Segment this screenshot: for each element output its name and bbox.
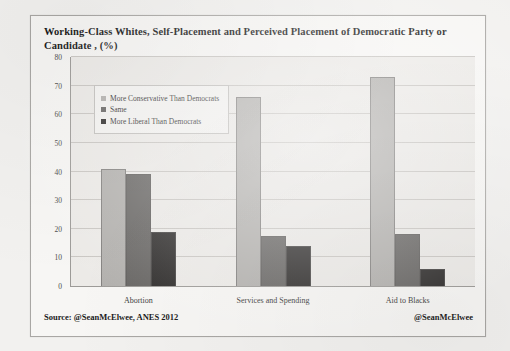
legend-label: Same [110,105,127,114]
y-axis-tick-70: 70 [55,81,63,90]
y-axis-tick-20: 20 [55,224,63,233]
legend-item[interactable]: More Liberal Than Democrats [101,117,219,126]
legend-item[interactable]: Same [101,105,219,114]
y-axis-tick-60: 60 [55,110,63,119]
x-axis-label: Aid to Blacks [340,289,475,305]
y-axis: 01020304050607080 [44,57,66,286]
chart-title: Working-Class Whites, Self-Placement and… [44,25,472,53]
legend-swatch-icon [101,119,106,124]
bar[interactable] [261,236,286,286]
y-axis-tick-50: 50 [55,138,63,147]
y-axis-tick-40: 40 [55,167,63,176]
y-axis-tick-0: 0 [58,282,62,291]
bar[interactable] [370,77,395,286]
x-axis-label: Services and Spending [206,289,341,305]
bar[interactable] [101,169,126,286]
chart-frame: Working-Class Whites, Self-Placement and… [30,15,486,337]
y-axis-tick-30: 30 [55,196,63,205]
bar[interactable] [126,174,151,286]
x-axis: AbortionServices and SpendingAid to Blac… [71,289,475,305]
bar[interactable] [151,232,176,286]
y-axis-tick-80: 80 [55,53,63,62]
legend-label: More Liberal Than Democrats [110,117,201,126]
y-axis-tick-10: 10 [55,253,63,262]
chart-footer: Source: @SeanMcElwee, ANES 2012 @SeanMcE… [44,312,473,322]
x-axis-label: Abortion [71,289,206,305]
bar[interactable] [420,269,445,286]
legend-label: More Conservative Than Democrats [110,94,219,103]
bar[interactable] [395,234,420,286]
bar-group-aid-to-blacks [340,57,475,286]
source-note: Source: @SeanMcElwee, ANES 2012 [44,312,178,322]
legend-item[interactable]: More Conservative Than Democrats [101,94,219,103]
chart-legend: More Conservative Than DemocratsSameMore… [94,85,229,134]
bar[interactable] [286,246,311,286]
bar[interactable] [236,97,261,286]
legend-swatch-icon [101,96,106,101]
legend-swatch-icon [101,107,106,112]
author-handle: @SeanMcElwee [414,312,473,322]
